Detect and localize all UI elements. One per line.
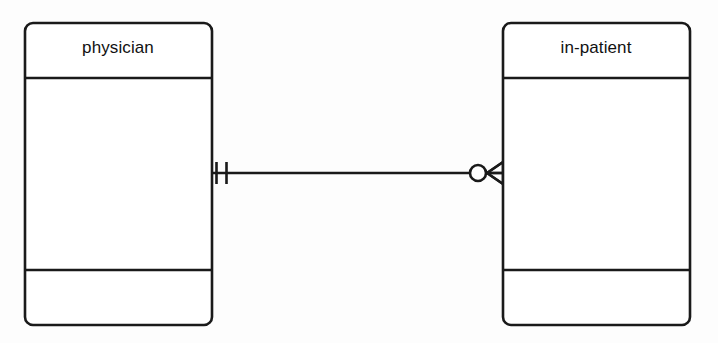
relationship-physician-in-patient[interactable] [212, 162, 503, 184]
er-diagram-canvas: physician in-patient [0, 0, 718, 343]
entity-in-patient[interactable]: in-patient [503, 23, 690, 325]
entity-physician-box [25, 23, 212, 325]
entity-in-patient-title: in-patient [561, 38, 632, 57]
cardinality-zero-or-many-icon [470, 162, 503, 184]
entity-physician-title: physician [82, 38, 154, 57]
entity-physician[interactable]: physician [25, 23, 212, 325]
entity-in-patient-box [503, 23, 690, 325]
er-diagram-svg: physician in-patient [0, 0, 718, 343]
